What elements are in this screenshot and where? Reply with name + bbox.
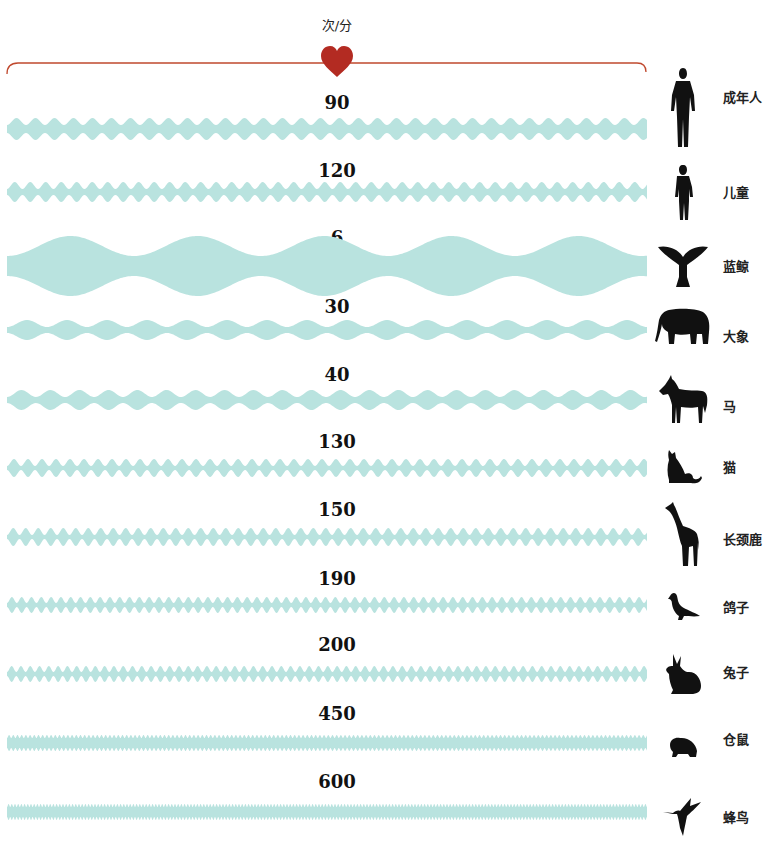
heartbeat-waveform — [7, 526, 647, 548]
animal-name: 长颈鹿 — [723, 529, 762, 548]
cat-icon — [648, 450, 718, 485]
heartbeat-waveform — [7, 234, 647, 298]
heartbeat-waveform — [7, 180, 647, 204]
animal-name: 蜂鸟 — [723, 807, 749, 826]
elephant-icon — [648, 308, 718, 346]
animal-name: 猫 — [723, 457, 736, 476]
heartbeat-waveform — [7, 457, 647, 479]
whale-tail-icon — [648, 243, 718, 287]
giraffe-icon — [648, 502, 718, 567]
header-bracket — [0, 40, 660, 85]
animal-name: 兔子 — [723, 662, 749, 681]
animal-name: 蓝鲸 — [723, 256, 749, 275]
hummingbird-icon — [648, 798, 718, 836]
animal-name: 成年人 — [723, 87, 762, 106]
heartbeat-waveform — [7, 595, 647, 615]
child-icon — [648, 165, 718, 221]
rabbit-icon — [648, 654, 718, 694]
heartbeat-waveform — [7, 388, 647, 412]
heartbeat-waveform — [7, 733, 647, 753]
heartbeat-waveform — [7, 664, 647, 684]
horse-icon — [648, 375, 718, 425]
animal-name: 儿童 — [723, 182, 749, 201]
animal-name: 鸽子 — [723, 597, 749, 616]
heartbeat-waveform — [7, 802, 647, 822]
animal-name: 仓鼠 — [723, 729, 749, 748]
heart-icon — [321, 46, 353, 77]
heartbeat-waveform — [7, 318, 647, 342]
heartbeat-waveform — [7, 116, 647, 142]
animal-name: 马 — [723, 396, 736, 415]
hamster-icon — [648, 735, 718, 757]
animal-name: 大象 — [723, 326, 749, 345]
adult-human-icon — [648, 68, 718, 148]
pigeon-icon — [648, 592, 718, 622]
